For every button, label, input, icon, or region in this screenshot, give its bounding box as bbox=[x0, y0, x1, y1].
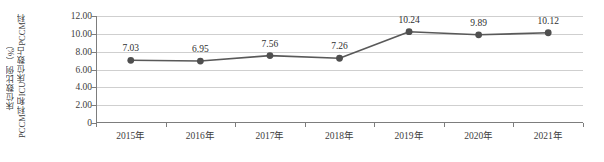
data-point-labels: 7.036.957.567.2610.249.8910.12 bbox=[96, 16, 583, 123]
x-axis-tick-labels: 2015年2016年2017年2018年2019年2020年2021年 bbox=[96, 130, 583, 150]
chart-figure: PCCM科和ICU床位数占PCCM科 床位数比例（%） 02.004.006.0… bbox=[0, 0, 604, 162]
x-axis-tick-label: 2016年 bbox=[186, 130, 215, 142]
x-axis-tick-label: 2019年 bbox=[395, 130, 424, 142]
data-point-label: 10.24 bbox=[398, 15, 419, 26]
y-axis-title: PCCM科和ICU床位数占PCCM科 床位数比例（%） bbox=[0, 0, 34, 150]
y-axis-title-line-1: PCCM科和ICU床位数占PCCM科 bbox=[17, 13, 28, 138]
x-axis-tick-mark bbox=[583, 123, 584, 127]
y-axis-tick-label: 6.00 bbox=[52, 65, 92, 75]
x-axis-tick-marks bbox=[96, 123, 583, 127]
y-axis-tick-labels: 02.004.006.008.0010.0012.00 bbox=[52, 16, 92, 123]
y-axis-tick-label: 2.00 bbox=[52, 100, 92, 110]
x-axis-tick-label: 2017年 bbox=[255, 130, 284, 142]
y-axis-tick-label: 8.00 bbox=[52, 47, 92, 57]
y-axis-tick-label: 12.00 bbox=[52, 11, 92, 21]
y-axis-tick-label: 0 bbox=[52, 118, 92, 128]
data-point-label: 7.26 bbox=[331, 41, 348, 52]
data-point-label: 7.56 bbox=[262, 39, 279, 50]
x-axis-tick-mark bbox=[444, 123, 445, 127]
y-axis-tick-label: 4.00 bbox=[52, 82, 92, 92]
data-point-label: 6.95 bbox=[192, 44, 209, 55]
x-axis-tick-label: 2020年 bbox=[464, 130, 493, 142]
x-axis-tick-label: 2018年 bbox=[325, 130, 354, 142]
y-axis-title-line-2: 床位数比例（%） bbox=[6, 40, 17, 110]
y-axis-tick-label: 10.00 bbox=[52, 29, 92, 39]
x-axis-tick-mark bbox=[305, 123, 306, 127]
data-point-label: 9.89 bbox=[470, 18, 487, 29]
x-axis-tick-label: 2015年 bbox=[116, 130, 145, 142]
x-axis-tick-mark bbox=[374, 123, 375, 127]
x-axis-tick-mark bbox=[513, 123, 514, 127]
x-axis-tick-mark bbox=[96, 123, 97, 127]
data-point-label: 7.03 bbox=[122, 43, 139, 54]
x-axis-tick-mark bbox=[235, 123, 236, 127]
x-axis-tick-mark bbox=[166, 123, 167, 127]
x-axis-tick-label: 2021年 bbox=[534, 130, 563, 142]
data-point-label: 10.12 bbox=[538, 16, 559, 27]
